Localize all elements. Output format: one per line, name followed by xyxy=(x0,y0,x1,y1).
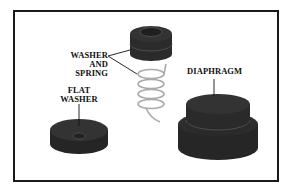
label-flat-washer: FLAT WASHER xyxy=(60,86,98,104)
washer-cup xyxy=(130,26,172,61)
flat-washer xyxy=(50,104,108,154)
label-diaphragm: DIAPHRAGM xyxy=(187,67,242,76)
parts-illustration xyxy=(0,0,290,191)
label-washer-and-spring: WASHER AND SPRING xyxy=(60,51,108,78)
diaphragm xyxy=(178,79,258,160)
label-spring-line2: AND SPRING xyxy=(60,60,108,78)
spring xyxy=(138,64,166,122)
label-washer-line2: WASHER xyxy=(60,95,98,104)
